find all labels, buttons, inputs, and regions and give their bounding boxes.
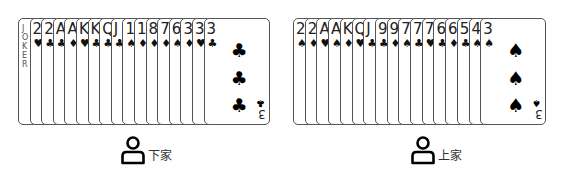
- card-rank: JOKER: [22, 24, 30, 69]
- card-rank: 6: [436, 22, 445, 37]
- card-rank: K: [91, 22, 100, 37]
- card-rank: 5: [460, 22, 469, 37]
- card-rank: 3: [183, 22, 192, 37]
- card-rank: 9: [390, 22, 399, 37]
- card-rank: 6: [172, 22, 181, 37]
- card-rank: 3: [195, 22, 204, 37]
- card-pip-icon: ♠: [507, 69, 524, 88]
- card-rank: 7: [413, 22, 422, 37]
- card-rank: 8: [149, 22, 158, 37]
- card-rank: 9: [378, 22, 387, 37]
- player-right: 上家: [410, 135, 462, 165]
- card-rank: J: [114, 22, 117, 37]
- card-pip-icon: ♠: [507, 96, 524, 115]
- card-suit-icon: ♣: [208, 38, 218, 49]
- player-label: 下家: [148, 146, 172, 163]
- card-rank: K: [79, 22, 88, 37]
- player-left: 下家: [120, 135, 172, 165]
- card-rank: 7: [425, 22, 434, 37]
- card-rank: 2: [44, 22, 53, 37]
- card-rank: 3: [258, 108, 266, 120]
- card-rank: 3: [535, 108, 543, 120]
- card-rank: 3: [207, 22, 216, 37]
- card-rank: 3: [483, 22, 492, 37]
- card-rank: 6: [448, 22, 457, 37]
- card-rank: 4: [472, 22, 481, 37]
- card-rank: 7: [160, 22, 169, 37]
- card[interactable]: 3♣♣♣♣♣3: [204, 18, 270, 125]
- card-pip-icon: ♠: [507, 41, 524, 60]
- card-rank: J: [366, 22, 369, 37]
- user-icon: [410, 135, 436, 165]
- card-pip-icon: ♣: [231, 96, 248, 115]
- card-rank: K: [343, 22, 352, 37]
- card-rank: A: [331, 22, 340, 37]
- card-pip-icon: ♣: [231, 69, 248, 88]
- card-rank: 2: [33, 22, 42, 37]
- card-suit-icon: ♠: [484, 38, 494, 49]
- user-icon: [120, 135, 146, 165]
- player-label: 上家: [438, 146, 462, 163]
- card-rank: 2: [308, 22, 317, 37]
- card-pip-icon: ♣: [231, 41, 248, 60]
- card[interactable]: 3♠♠♠♠♠3: [480, 18, 546, 125]
- card-rank: 2: [296, 22, 305, 37]
- card-rank: 7: [401, 22, 410, 37]
